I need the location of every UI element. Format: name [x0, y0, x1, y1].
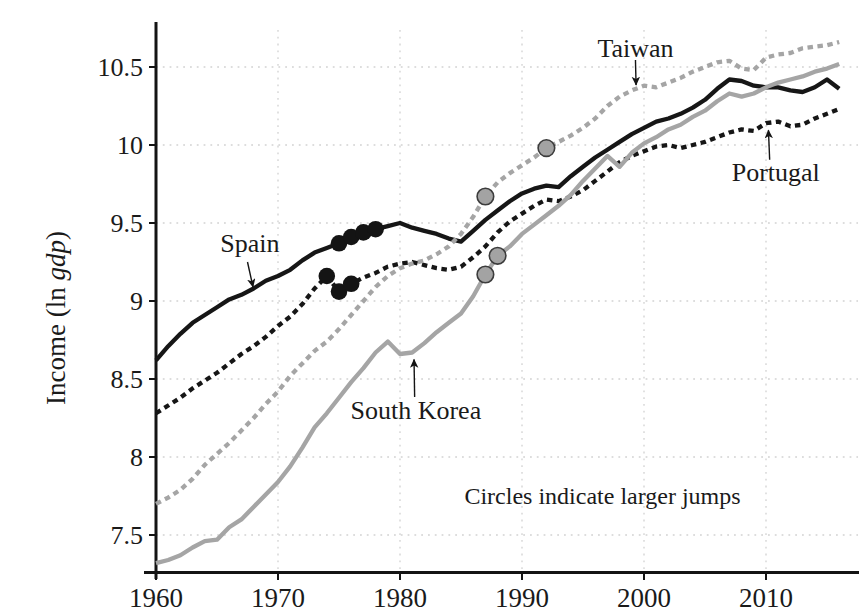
x-tick-label-1970: 1970	[251, 583, 305, 608]
x-tick-label-1980: 1980	[373, 583, 427, 608]
south-korea-label: South Korea	[351, 396, 482, 425]
y-tick-label-9: 9	[130, 287, 143, 316]
x-tick-label-2000: 2000	[617, 583, 671, 608]
portugal-label: Portugal	[732, 158, 820, 187]
jump-marker-south-korea-1988	[489, 248, 506, 265]
x-tick-label-1990: 1990	[495, 583, 549, 608]
y-tick-label-10.5: 10.5	[98, 53, 144, 82]
jump-marker-portugal-1976	[343, 276, 360, 293]
jump-marker-south-korea-1987	[477, 266, 494, 283]
y-tick-label-10: 10	[117, 131, 143, 160]
y-axis-title: Income (ln gdp)	[41, 231, 71, 405]
x-tick-label-2010: 2010	[739, 583, 793, 608]
jumps-note: Circles indicate larger jumps	[464, 483, 740, 509]
x-tick-label-1960: 1960	[129, 583, 183, 608]
chart-background	[40, 16, 863, 608]
y-axis-title-part-1: gdp	[41, 240, 71, 281]
y-tick-label-8.5: 8.5	[111, 365, 144, 394]
income-chart: 1960197019801990200020107.588.599.51010.…	[40, 16, 863, 608]
y-tick-label-8: 8	[130, 443, 143, 472]
jump-marker-portugal-1974	[319, 268, 336, 285]
taiwan-label: Taiwan	[597, 34, 673, 63]
jump-marker-taiwan-1992	[538, 140, 555, 157]
taiwan-label-arrow	[635, 60, 636, 85]
jump-marker-spain-1978	[367, 221, 384, 238]
south-korea-label-arrow	[414, 360, 415, 397]
spain-label: Spain	[220, 229, 279, 258]
y-axis-title-part-2: )	[41, 231, 71, 240]
income-chart-figure: 1960197019801990200020107.588.599.51010.…	[40, 16, 863, 608]
y-tick-label-9.5: 9.5	[111, 209, 144, 238]
y-tick-label-7.5: 7.5	[111, 521, 144, 550]
jump-marker-taiwan-1987	[477, 188, 494, 205]
y-axis-title-part-0: Income (ln	[41, 281, 71, 405]
